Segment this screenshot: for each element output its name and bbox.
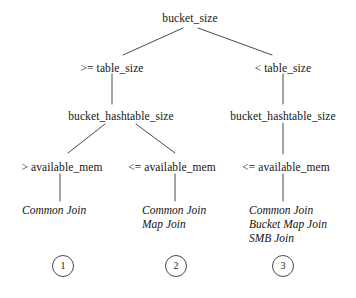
tree-edges: [0, 0, 356, 298]
node-ge-table-size: >= table_size: [80, 62, 143, 75]
leaf-line: Common Join: [249, 203, 327, 217]
leaf-line: SMB Join: [249, 231, 327, 245]
badge-case-3: 3: [272, 255, 294, 277]
leaf-line: Bucket Map Join: [249, 217, 327, 231]
node-bucket-hashtable-size-right: bucket_hashtable_size: [230, 110, 336, 123]
node-root-bucket-size: bucket_size: [162, 12, 217, 25]
leaf-outcome-3: Common Join Bucket Map Join SMB Join: [249, 203, 327, 245]
edge-root-to-right: [198, 28, 272, 55]
node-gt-available-mem: > available_mem: [21, 161, 102, 174]
leaf-line: Map Join: [142, 217, 206, 231]
node-bucket-hashtable-size-left: bucket_hashtable_size: [68, 110, 174, 123]
leaf-outcome-1: Common Join: [22, 203, 86, 217]
edge-lefthash-to-midmem: [136, 124, 175, 153]
decision-tree-diagram: bucket_size >= table_size < table_size b…: [0, 0, 356, 298]
edge-root-to-left: [123, 28, 183, 55]
leaf-outcome-2: Common Join Map Join: [142, 203, 206, 231]
leaf-line: Common Join: [22, 203, 86, 217]
edge-lefthash-to-leftmem: [68, 124, 105, 153]
node-le-available-mem-middle: <= available_mem: [128, 161, 216, 174]
node-lt-table-size: < table_size: [255, 62, 312, 75]
node-le-available-mem-right: <= available_mem: [242, 161, 330, 174]
leaf-line: Common Join: [142, 203, 206, 217]
badge-case-1: 1: [52, 255, 74, 277]
badge-case-2: 2: [165, 255, 187, 277]
